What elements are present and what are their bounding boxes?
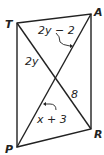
parallelogram-diagram: T A R P 2y − 2 2y 8 x + 3 <box>0 0 104 155</box>
top-segment-label: 2y − 2 <box>38 24 75 37</box>
vertex-r-label: R <box>94 128 102 141</box>
right-segment-label: 8 <box>71 88 78 101</box>
vertex-p-label: P <box>5 143 13 155</box>
bottom-segment-label: x + 3 <box>36 113 67 126</box>
left-segment-label: 2y <box>25 55 39 68</box>
vertex-t-label: T <box>5 18 14 31</box>
vertex-a-label: A <box>93 6 103 19</box>
arrow-bottom-icon <box>45 104 56 110</box>
arrowhead-bottom-icon <box>43 102 46 106</box>
